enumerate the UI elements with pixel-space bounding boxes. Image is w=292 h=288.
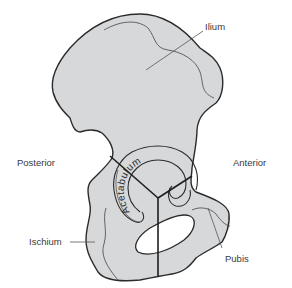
hip-bone-diagram: Acetabulum Ilium Posterior Anterior Isch… <box>0 0 292 288</box>
label-pubis: Pubis <box>225 253 249 264</box>
label-ischium: Ischium <box>29 236 62 247</box>
label-posterior: Posterior <box>17 157 55 168</box>
label-ilium: Ilium <box>205 21 225 32</box>
label-anterior: Anterior <box>233 157 266 168</box>
